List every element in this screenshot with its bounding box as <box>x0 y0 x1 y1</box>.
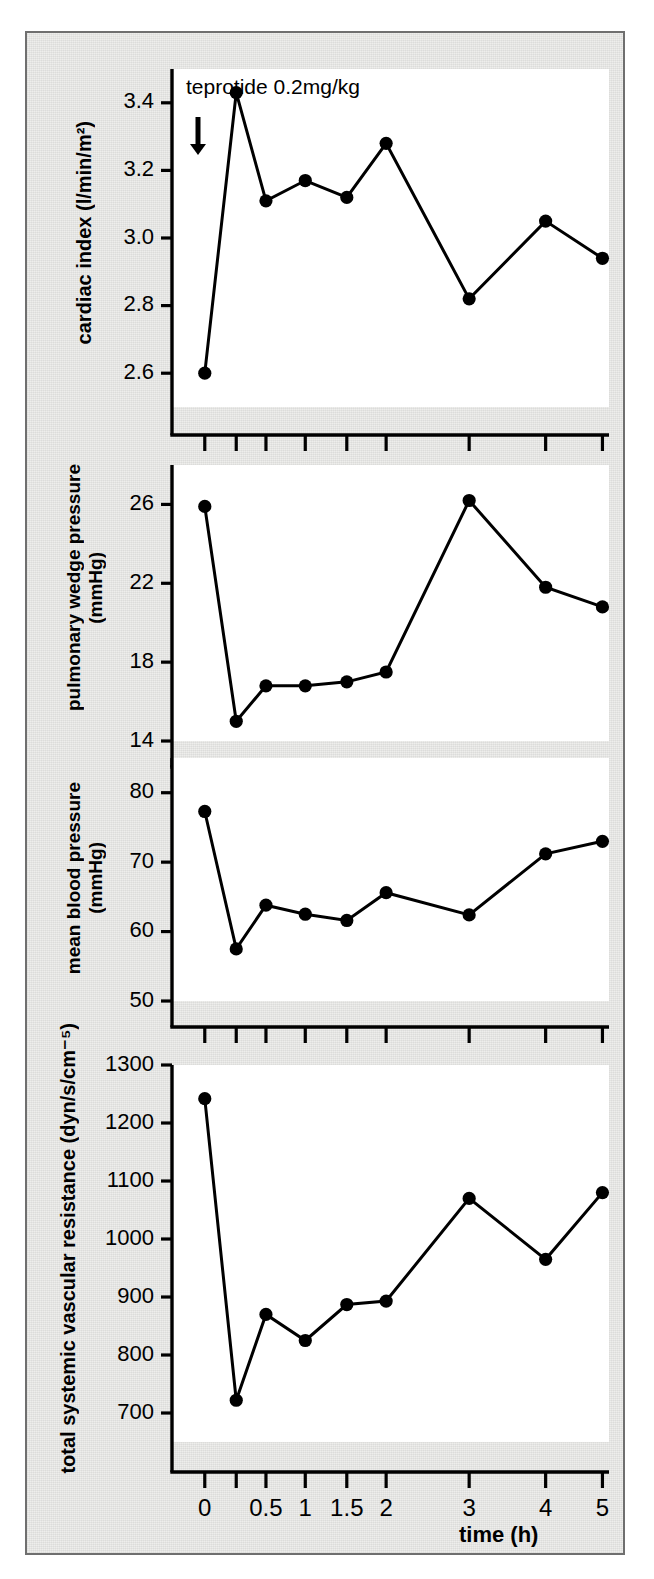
x-tick-label: 0 <box>175 1494 235 1522</box>
plot-svg-panel-4 <box>172 1065 609 1485</box>
y-tick-label: 800 <box>34 1343 154 1365</box>
plot-svg-panel-1 <box>172 69 609 449</box>
x-tick-label: 2 <box>356 1494 416 1522</box>
x-tick-label: 3 <box>439 1494 499 1522</box>
y-tick-label: 50 <box>34 989 154 1011</box>
plot-area-panel-2: 14182226 <box>172 465 609 741</box>
y-tick-label: 1200 <box>34 1111 154 1133</box>
down-arrow-icon <box>190 117 206 155</box>
y-tick-label: 60 <box>34 919 154 941</box>
y-tick-label: 80 <box>34 780 154 802</box>
y-tick-label: 3.0 <box>34 226 154 248</box>
plot-area-panel-3: 50607080 <box>172 758 609 1001</box>
y-tick-label: 900 <box>34 1285 154 1307</box>
plot-area-panel-4: 700800900100011001200130000.511.52345 <box>172 1065 609 1442</box>
chart-panel-mean-blood-pressure: mean blood pressure (mmHg) 50607080 <box>27 728 627 1018</box>
x-tick-label: 4 <box>516 1494 576 1522</box>
chart-panel-pulmonary-wedge-pressure: pulmonary wedge pressure (mmHg) 14182226 <box>27 433 627 728</box>
figure-panel-container: cardiac index (l/min/m²) 2.62.83.03.23.4… <box>25 31 625 1555</box>
y-tick-label: 26 <box>34 492 154 514</box>
plot-area-panel-1: 2.62.83.03.23.4teprotide 0.2mg/kg <box>172 69 609 407</box>
y-tick-label: 3.4 <box>34 90 154 112</box>
y-tick-label: 1100 <box>34 1169 154 1191</box>
y-tick-label: 700 <box>34 1401 154 1423</box>
y-tick-label: 2.8 <box>34 293 154 315</box>
y-tick-label: 70 <box>34 850 154 872</box>
y-tick-label: 18 <box>34 650 154 672</box>
chart-panel-total-systemic-vascular-resistance: total systemic vascular resistance (dyn/… <box>27 1018 627 1498</box>
y-tick-label: 22 <box>34 571 154 593</box>
x-tick-label: 5 <box>572 1494 632 1522</box>
y-tick-label: 2.6 <box>34 361 154 383</box>
y-tick-label: 1300 <box>34 1053 154 1075</box>
teprotide-annotation: teprotide 0.2mg/kg <box>186 75 360 99</box>
chart-panel-cardiac-index: cardiac index (l/min/m²) 2.62.83.03.23.4… <box>27 33 627 433</box>
y-tick-label: 1000 <box>34 1227 154 1249</box>
y-tick-label: 3.2 <box>34 158 154 180</box>
plot-svg-panel-3 <box>172 758 609 1038</box>
x-axis-label: time (h) <box>459 1522 538 1548</box>
